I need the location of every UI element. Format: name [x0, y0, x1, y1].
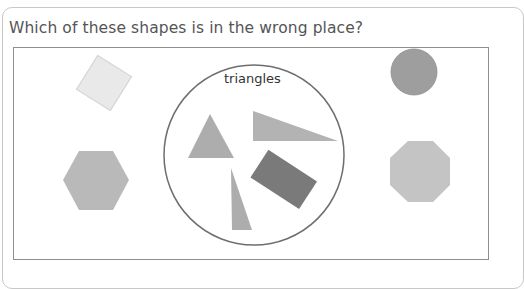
equilateral-triangle-shape[interactable] — [188, 114, 234, 158]
square-shape[interactable] — [76, 55, 131, 110]
right-triangle-tall-shape[interactable] — [231, 168, 252, 230]
octagon-shape[interactable] — [390, 141, 450, 202]
sorting-circle-label: triangles — [224, 71, 281, 86]
hexagon-shape[interactable] — [63, 151, 129, 210]
right-triangle-wide-shape[interactable] — [253, 111, 338, 141]
rectangle-shape[interactable] — [250, 150, 317, 209]
circle-shape[interactable] — [391, 49, 437, 95]
